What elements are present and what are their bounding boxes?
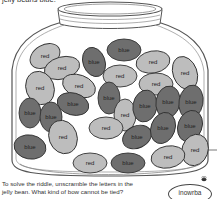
bean-label: blue	[157, 125, 169, 131]
bean-label: red	[58, 65, 67, 71]
bean-label: blue	[45, 114, 57, 120]
jelly-bean-blue: blue	[19, 98, 41, 128]
bean-label: blue	[118, 47, 130, 53]
bean-label: blue	[131, 134, 143, 140]
jelly-bean-jar: redblueblueredredredredredredredblueblue…	[0, 0, 217, 199]
bean-label: blue	[184, 123, 196, 129]
bean-label: blue	[185, 99, 197, 105]
bean-label: blue	[122, 160, 134, 166]
bee-icon	[200, 176, 208, 182]
scrambled-word: inowrba	[169, 189, 211, 196]
jelly-bean-red: red	[73, 153, 107, 173]
bean-label: red	[149, 59, 158, 65]
bean-label: blue	[67, 101, 79, 107]
bean-label: red	[75, 83, 84, 89]
bean-label: red	[116, 73, 125, 79]
bean-label: blue	[162, 99, 174, 105]
bean-label: red	[121, 112, 130, 118]
bean-label: blue	[103, 95, 115, 101]
bean-label: red	[102, 125, 111, 131]
riddle-line-1: To solve the riddle, unscramble the lett…	[2, 180, 162, 188]
jelly-bean-red: red	[89, 117, 123, 139]
bean-label: red	[181, 70, 190, 76]
scrambled-word-bean: inowrba	[168, 184, 212, 199]
jelly-beans-group: redblueblueredredredredredredredblueblue…	[12, 38, 213, 173]
jelly-bean-blue: blue	[107, 39, 141, 61]
bean-label: red	[59, 134, 68, 140]
bean-label: red	[86, 160, 95, 166]
jelly-bean-red: red	[149, 143, 186, 171]
bean-label: blue	[139, 103, 151, 109]
bean-label: red	[41, 53, 50, 59]
bean-label: blue	[24, 110, 36, 116]
jelly-bean-blue: blue	[111, 153, 145, 173]
bean-label: red	[152, 81, 161, 87]
bean-label: blue	[24, 144, 36, 150]
jelly-bean-blue: blue	[12, 132, 48, 161]
bean-label: blue	[88, 59, 100, 65]
riddle-instructions: To solve the riddle, unscramble the lett…	[2, 180, 162, 196]
riddle-line-2: jelly bean. What kind of bow cannot be t…	[2, 188, 162, 196]
bean-label: red	[164, 154, 173, 160]
bean-label: red	[36, 85, 45, 91]
bean-label: red	[191, 147, 200, 153]
